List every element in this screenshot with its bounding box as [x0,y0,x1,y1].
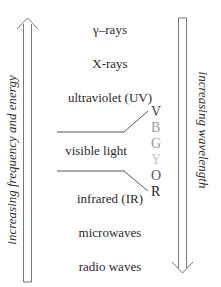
band-visible-light: visible light [36,143,156,159]
right-axis-label: increasing wavelength [195,72,211,189]
band-radio-waves: radio waves [40,259,180,275]
spectrum-letter-b: B [151,120,160,136]
spectrum-letter-g: G [151,136,161,152]
spectrum-letter-o: O [151,168,161,184]
band-microwaves: microwaves [40,225,180,241]
band-x-rays: X-rays [40,56,180,72]
band-gamma-rays: γ–rays [40,22,180,38]
left-axis-label: increasing frequency and energy [4,75,20,244]
spectrum-letter-r: R [151,184,160,200]
spectrum-letter-y: Y [151,152,161,168]
spectrum-letter-v: V [151,104,161,120]
left-arrow-icon [17,18,38,282]
